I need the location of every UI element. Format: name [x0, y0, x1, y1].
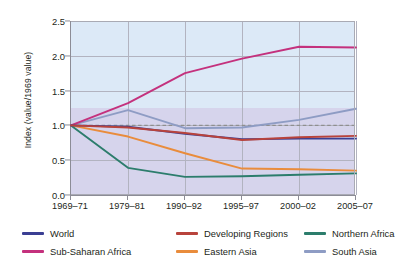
y-tick-mark [65, 90, 70, 91]
x-tick-mark [70, 195, 71, 200]
legend-swatch [304, 232, 326, 234]
x-tick-mark [355, 195, 356, 200]
y-tick-label: 2.0 [38, 50, 65, 61]
legend-item-world[interactable]: World [22, 225, 74, 242]
x-axis-line [70, 195, 356, 196]
x-tick-mark [184, 195, 185, 200]
x-tick-mark [127, 195, 128, 200]
legend-item-south-asia[interactable]: South Asia [304, 243, 377, 260]
y-tick-mark [65, 20, 70, 21]
y-tick-label: 0.5 [38, 155, 65, 166]
x-tick-label: 1990–92 [166, 201, 202, 211]
y-tick-label: 2.5 [38, 16, 65, 27]
legend-swatch [176, 250, 198, 252]
y-tick-mark [65, 55, 70, 56]
legend-label: Developing Regions [204, 228, 288, 239]
y-tick-mark [65, 125, 70, 126]
legend-label: Northern Africa [332, 228, 395, 239]
legend-swatch [22, 232, 44, 234]
series-line-eastern-asia [71, 125, 356, 170]
y-tick-mark [65, 160, 70, 161]
y-tick-label: 1.0 [38, 120, 65, 131]
x-tick-label: 1969–71 [52, 201, 88, 211]
y-axis-title: Index (value/1969 value) [23, 20, 33, 180]
x-tick-label: 2000–02 [280, 201, 316, 211]
legend-item-eastern-asia[interactable]: Eastern Asia [176, 243, 257, 260]
legend-swatch [22, 250, 44, 252]
x-tick-label: 1979–81 [109, 201, 145, 211]
x-tick-label: 1995–97 [223, 201, 259, 211]
chart-legend: WorldDeveloping RegionsNorthern AfricaSu… [22, 225, 394, 265]
legend-label: Sub-Saharan Africa [50, 246, 131, 257]
x-tick-label: 2005–07 [337, 201, 373, 211]
plot-area [70, 21, 355, 195]
series-lines [71, 21, 356, 195]
legend-swatch [304, 250, 326, 252]
y-tick-label: 1.5 [38, 85, 65, 96]
x-tick-mark [298, 195, 299, 200]
legend-label: South Asia [332, 246, 377, 257]
legend-label: World [50, 228, 74, 239]
legend-item-sub-saharan-africa[interactable]: Sub-Saharan Africa [22, 243, 131, 260]
legend-label: Eastern Asia [204, 246, 257, 257]
y-tick-label: 0.0 [38, 190, 65, 201]
legend-item-developing-regions[interactable]: Developing Regions [176, 225, 288, 242]
legend-swatch [176, 232, 198, 234]
legend-item-northern-africa[interactable]: Northern Africa [304, 225, 395, 242]
x-tick-mark [241, 195, 242, 200]
